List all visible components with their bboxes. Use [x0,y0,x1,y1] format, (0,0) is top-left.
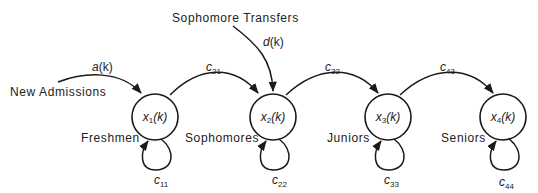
input-label-new-admissions: New Admissions [10,85,106,99]
input-label-sophomore-transfers: Sophomore Transfers [172,11,299,25]
self-loop-label-c33: c33 [384,173,399,189]
node-caption-freshmen: Freshmen [81,131,140,145]
self-loop-x1 [142,139,171,170]
self-loop-x4 [490,139,519,170]
node-juniors: x3(k) Juniors c33 [327,94,411,189]
self-loop-label-c22: c22 [272,173,287,189]
self-loop-label-c44: c44 [499,175,514,191]
input-symbol-a: a(k) [92,60,113,74]
node-freshmen: x1(k) Freshmen c11 [81,94,178,189]
transition-label-c21: c21 [206,60,221,76]
node-seniors: x4(k) Seniors c44 [441,94,526,191]
self-loop-x3 [375,139,404,170]
node-label-x3: x3(k) [375,110,400,125]
transition-label-c43: c43 [440,60,455,76]
node-label-x4: x4(k) [490,110,515,125]
node-caption-sophomores: Sophomores [185,131,259,145]
input-symbol-d: d(k) [263,35,284,49]
node-caption-seniors: Seniors [441,131,486,145]
node-label-x1: x1(k) [142,110,167,125]
node-caption-juniors: Juniors [327,131,370,145]
node-label-x2: x2(k) [260,110,285,125]
transition-label-c32: c32 [325,60,340,76]
enrollment-state-diagram: New Admissions a(k) Sophomore Transfers … [0,0,538,193]
self-loop-x2 [260,139,289,170]
node-sophomores: x2(k) Sophomores c22 [185,94,296,189]
self-loop-label-c11: c11 [154,173,169,189]
